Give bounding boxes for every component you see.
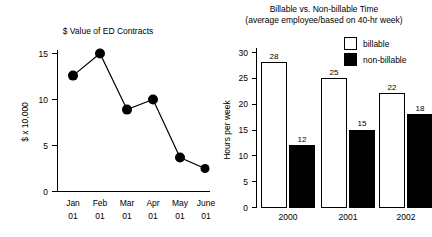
- line-chart-xtick-label-june-month: June: [197, 198, 216, 208]
- line-chart-point-feb: [95, 49, 105, 59]
- bar-chart-xtick-label-2002: 2002: [397, 212, 416, 222]
- bar-chart-ytick-label-0: 0: [243, 203, 248, 213]
- line-chart-xtick-label-feb-month: Feb: [93, 198, 108, 208]
- bar-chart-y-axis-label: Hours per week: [222, 99, 232, 159]
- bar-nonbillable-2001: [350, 130, 375, 208]
- bar-value-nonbillable-2000: 12: [298, 135, 307, 144]
- line-chart-y-axis-label: $ x 10,000: [20, 102, 30, 142]
- bar-chart-title: Billable vs. Non-billable Time (average …: [216, 4, 432, 26]
- bar-nonbillable-2002: [408, 115, 432, 208]
- bar-chart-ytick-label-5: 5: [243, 177, 248, 187]
- line-chart-xtick-label-mar-year: 01: [122, 211, 132, 221]
- line-chart-ytick-label-5: 5: [43, 141, 48, 151]
- line-chart-ytick-label-0: 0: [43, 187, 48, 197]
- bar-chart-panel: Billable vs. Non-billable Time (average …: [216, 0, 432, 237]
- line-chart-panel: $ Value of ED Contracts 0 5 10 15 $ x 10…: [0, 0, 216, 237]
- bar-chart-legend: billable non-billable: [345, 38, 407, 66]
- line-chart-point-june: [201, 164, 210, 173]
- bar-chart-title-line2: (average employee/based on 40-hr week): [216, 15, 432, 26]
- bar-chart-xtick-label-2001: 2001: [339, 212, 358, 222]
- line-chart-title: $ Value of ED Contracts: [0, 26, 216, 37]
- bar-nonbillable-2000: [290, 146, 315, 208]
- bar-chart-ytick-label-30: 30: [239, 48, 249, 58]
- line-chart-point-may: [175, 153, 185, 163]
- bar-value-billable-2000: 28: [270, 52, 279, 61]
- line-chart-series-path: [73, 54, 205, 169]
- legend-swatch-nonbillable-icon: [345, 54, 357, 66]
- bar-billable-2002: [380, 94, 405, 208]
- bar-chart-xtick-label-2000: 2000: [279, 212, 298, 222]
- line-chart-xtick-label-jan-month: Jan: [66, 198, 80, 208]
- legend-swatch-billable-icon: [345, 38, 357, 50]
- figure-container: $ Value of ED Contracts 0 5 10 15 $ x 10…: [0, 0, 432, 237]
- legend-label-nonbillable: non-billable: [363, 55, 407, 65]
- line-chart-ytick-label-10: 10: [39, 95, 49, 105]
- bar-value-nonbillable-2002: 18: [416, 104, 425, 113]
- line-chart-xtick-label-may-year: 01: [175, 211, 185, 221]
- bar-chart-ytick-label-20: 20: [239, 99, 249, 109]
- bar-billable-2000: [262, 63, 287, 208]
- line-chart-point-apr: [148, 95, 158, 105]
- line-chart-xtick-label-apr-year: 01: [148, 211, 158, 221]
- bar-chart-ytick-label-10: 10: [239, 151, 249, 161]
- line-chart-xtick-label-june-year: 01: [201, 211, 211, 221]
- line-chart-ytick-label-15: 15: [39, 49, 49, 59]
- bar-chart-ytick-label-25: 25: [239, 73, 249, 83]
- bar-chart-title-line1: Billable vs. Non-billable Time: [216, 4, 432, 15]
- bar-chart-svg: 0 5 10 15 20 25 30 Hours per week 28 12 …: [216, 0, 432, 237]
- bar-value-nonbillable-2001: 15: [358, 119, 367, 128]
- line-chart-xtick-label-feb-year: 01: [95, 211, 105, 221]
- line-chart-xtick-label-mar-month: Mar: [120, 198, 135, 208]
- bar-chart-ytick-label-15: 15: [239, 125, 249, 135]
- bar-billable-2001: [322, 78, 347, 207]
- line-chart-xtick-label-jan-year: 01: [68, 211, 78, 221]
- line-chart-xtick-label-apr-month: Apr: [146, 198, 159, 208]
- line-chart-xtick-label-may-month: May: [172, 198, 189, 208]
- bar-value-billable-2001: 25: [330, 68, 339, 77]
- line-chart-point-jan: [68, 71, 78, 81]
- legend-label-billable: billable: [363, 39, 390, 49]
- line-chart-point-mar: [122, 105, 132, 115]
- bar-value-billable-2002: 22: [388, 83, 397, 92]
